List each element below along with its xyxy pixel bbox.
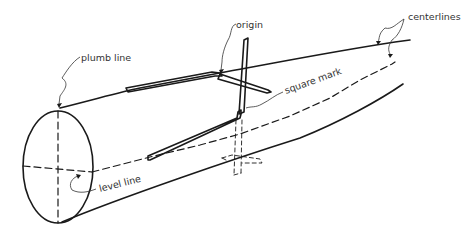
side-batten [148, 110, 241, 160]
log-end-face [23, 111, 93, 223]
log-layout-diagram: plumb line origin centerlines square mar… [0, 0, 473, 236]
origin-label: origin [236, 19, 263, 30]
square-mark-label: square mark [283, 65, 343, 96]
side-straightedge [148, 110, 241, 160]
log-top-edge [60, 40, 410, 108]
origin-leader [221, 24, 236, 70]
log-body [60, 40, 410, 222]
label-square-mark: square mark [246, 65, 343, 108]
level-line-label: level line [98, 173, 142, 194]
centerlines-label: centerlines [408, 11, 461, 22]
hidden-post-left [234, 120, 236, 175]
centerlines-arrowhead-bottom [388, 54, 393, 58]
label-centerlines: centerlines [376, 11, 461, 58]
square-mark-tool [218, 38, 271, 114]
label-level-line: level line [70, 173, 142, 194]
log-bottom-edge [62, 84, 403, 222]
plumb-line-leader [59, 57, 80, 104]
hidden-post-right [241, 120, 242, 173]
square-post [239, 38, 248, 114]
plumb-line-label: plumb line [81, 52, 131, 63]
square-mark-leader [246, 92, 283, 108]
hidden-crossbar-tick [222, 158, 226, 160]
hidden-post-bottom [234, 173, 241, 175]
